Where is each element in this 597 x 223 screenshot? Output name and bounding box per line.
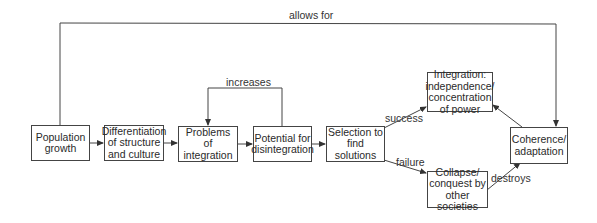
edge-label-destroys: destroys xyxy=(491,172,531,184)
edge-label-allows-for: allows for xyxy=(289,9,333,21)
node-label: Selection to find solutions xyxy=(328,127,383,162)
connector-lines xyxy=(0,0,597,223)
node-label: Coherence/ adaptation xyxy=(512,134,566,157)
node-label: Potential for disintegration xyxy=(251,133,313,156)
node-population-growth: Population growth xyxy=(31,125,90,161)
node-label: Problems of integration xyxy=(180,127,236,162)
node-selection: Selection to find solutions xyxy=(326,126,385,162)
node-potential-for-disintegration: Potential for disintegration xyxy=(253,126,312,162)
edge-label-increases: increases xyxy=(226,76,271,88)
node-integration: Integration: independence/ concentration… xyxy=(427,72,493,112)
node-label: Population growth xyxy=(33,132,88,155)
node-problems-of-integration: Problems of integration xyxy=(178,126,238,162)
node-label: Integration: independence/ concentration… xyxy=(426,69,495,115)
edge-label-success: success xyxy=(385,112,423,124)
edge-label-failure: failure xyxy=(396,156,425,168)
node-collapse: Collapse/ conquest by other societies xyxy=(427,171,488,208)
node-coherence-adaptation: Coherence/ adaptation xyxy=(510,127,568,164)
node-label: Differentiation of structure and culture xyxy=(102,126,167,161)
node-label: Collapse/ conquest by other societies xyxy=(429,167,486,213)
node-differentiation: Differentiation of structure and culture xyxy=(104,125,164,161)
